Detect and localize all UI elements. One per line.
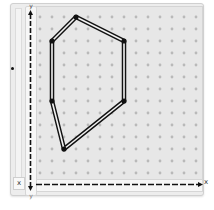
- peg[interactable]: [123, 112, 126, 115]
- peg[interactable]: [39, 28, 42, 31]
- peg[interactable]: [39, 112, 42, 115]
- peg[interactable]: [135, 100, 138, 103]
- peg[interactable]: [159, 28, 162, 31]
- peg[interactable]: [159, 64, 162, 67]
- peg[interactable]: [87, 40, 90, 43]
- peg[interactable]: [111, 28, 114, 31]
- peg[interactable]: [195, 88, 198, 91]
- peg[interactable]: [39, 172, 42, 175]
- peg[interactable]: [147, 136, 150, 139]
- peg[interactable]: [195, 28, 198, 31]
- peg[interactable]: [111, 76, 114, 79]
- peg[interactable]: [183, 124, 186, 127]
- peg[interactable]: [147, 40, 150, 43]
- peg[interactable]: [195, 100, 198, 103]
- peg[interactable]: [123, 136, 126, 139]
- peg[interactable]: [171, 16, 174, 19]
- peg[interactable]: [63, 16, 66, 19]
- peg[interactable]: [183, 52, 186, 55]
- peg[interactable]: [39, 124, 42, 127]
- peg[interactable]: [183, 148, 186, 151]
- peg[interactable]: [63, 40, 66, 43]
- peg[interactable]: [99, 112, 102, 115]
- peg[interactable]: [111, 88, 114, 91]
- peg[interactable]: [75, 88, 78, 91]
- peg[interactable]: [171, 160, 174, 163]
- peg[interactable]: [135, 52, 138, 55]
- peg[interactable]: [171, 148, 174, 151]
- peg[interactable]: [183, 16, 186, 19]
- peg[interactable]: [171, 64, 174, 67]
- peg[interactable]: [147, 148, 150, 151]
- peg[interactable]: [171, 28, 174, 31]
- peg[interactable]: [99, 88, 102, 91]
- peg[interactable]: [183, 100, 186, 103]
- peg[interactable]: [111, 100, 114, 103]
- peg[interactable]: [183, 64, 186, 67]
- peg[interactable]: [87, 88, 90, 91]
- peg[interactable]: [63, 88, 66, 91]
- peg[interactable]: [111, 148, 114, 151]
- peg[interactable]: [123, 160, 126, 163]
- peg[interactable]: [75, 76, 78, 79]
- peg[interactable]: [75, 52, 78, 55]
- peg[interactable]: [195, 52, 198, 55]
- peg[interactable]: [111, 52, 114, 55]
- peg[interactable]: [75, 124, 78, 127]
- peg[interactable]: [99, 64, 102, 67]
- hexagon-rubber-band[interactable]: [49, 14, 126, 151]
- peg[interactable]: [39, 88, 42, 91]
- peg[interactable]: [39, 64, 42, 67]
- peg[interactable]: [159, 124, 162, 127]
- peg[interactable]: [195, 112, 198, 115]
- peg[interactable]: [195, 172, 198, 175]
- peg[interactable]: [147, 28, 150, 31]
- peg[interactable]: [75, 64, 78, 67]
- peg[interactable]: [171, 112, 174, 115]
- peg[interactable]: [63, 76, 66, 79]
- peg[interactable]: [99, 148, 102, 151]
- peg[interactable]: [87, 16, 90, 19]
- peg[interactable]: [183, 88, 186, 91]
- peg[interactable]: [159, 52, 162, 55]
- peg[interactable]: [123, 28, 126, 31]
- peg[interactable]: [159, 172, 162, 175]
- peg[interactable]: [147, 160, 150, 163]
- peg[interactable]: [147, 124, 150, 127]
- peg[interactable]: [75, 172, 78, 175]
- peg[interactable]: [51, 136, 54, 139]
- peg[interactable]: [99, 100, 102, 103]
- peg[interactable]: [171, 76, 174, 79]
- peg[interactable]: [171, 88, 174, 91]
- peg[interactable]: [183, 28, 186, 31]
- peg[interactable]: [63, 112, 66, 115]
- peg[interactable]: [135, 64, 138, 67]
- peg[interactable]: [99, 136, 102, 139]
- peg[interactable]: [87, 112, 90, 115]
- peg[interactable]: [75, 112, 78, 115]
- peg[interactable]: [123, 148, 126, 151]
- peg[interactable]: [75, 148, 78, 151]
- peg[interactable]: [135, 40, 138, 43]
- peg[interactable]: [135, 28, 138, 31]
- peg[interactable]: [135, 76, 138, 79]
- peg[interactable]: [195, 16, 198, 19]
- peg[interactable]: [51, 28, 54, 31]
- peg[interactable]: [135, 148, 138, 151]
- peg[interactable]: [171, 40, 174, 43]
- vertex-peg[interactable]: [121, 38, 126, 43]
- peg[interactable]: [87, 160, 90, 163]
- peg[interactable]: [183, 136, 186, 139]
- peg[interactable]: [111, 124, 114, 127]
- peg[interactable]: [147, 112, 150, 115]
- peg[interactable]: [159, 136, 162, 139]
- peg[interactable]: [39, 16, 42, 19]
- peg[interactable]: [87, 52, 90, 55]
- peg[interactable]: [183, 112, 186, 115]
- peg[interactable]: [75, 40, 78, 43]
- peg[interactable]: [75, 100, 78, 103]
- peg[interactable]: [39, 40, 42, 43]
- peg[interactable]: [87, 172, 90, 175]
- peg[interactable]: [195, 76, 198, 79]
- peg[interactable]: [111, 172, 114, 175]
